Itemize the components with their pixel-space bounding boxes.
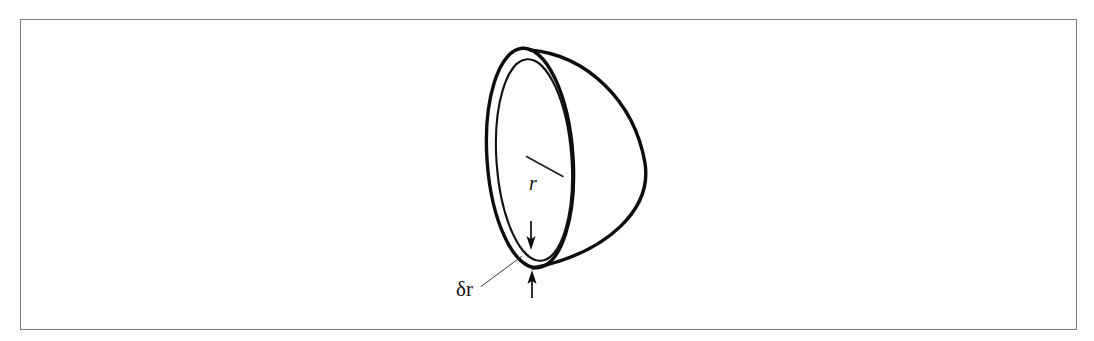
thickness-leader-line [481, 257, 522, 287]
hemisphere-bulge-arc-path [530, 50, 646, 268]
thickness-arrow-down [526, 221, 535, 250]
radius-label: r [529, 172, 537, 194]
figure-root: r δr [0, 0, 1094, 341]
thickness-label: δr [456, 277, 473, 301]
thickness-arrow-up [527, 270, 536, 298]
hemispherical-shell-diagram: r δr [0, 0, 1094, 341]
